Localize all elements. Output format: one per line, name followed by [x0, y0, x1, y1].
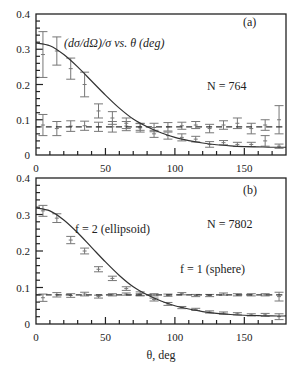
panel-b-ticks	[36, 185, 272, 324]
error-bar	[94, 267, 103, 272]
error-bar	[80, 121, 89, 130]
error-bar	[219, 141, 228, 145]
panel-b-label: (b)	[243, 183, 257, 197]
x-tick-label: 150	[236, 331, 253, 343]
figure: 00.10.20.30.4 050100150 (dσ/dΩ)/σ vs. θ …	[0, 0, 300, 372]
panel-b-n-annotation: N = 7802	[207, 217, 252, 231]
error-bar	[108, 276, 117, 280]
error-bar	[261, 136, 270, 147]
x-tick-label: 100	[167, 331, 184, 343]
error-bar	[205, 124, 214, 132]
x-tick-label: 50	[100, 331, 112, 343]
x-tick-label: 100	[167, 162, 184, 174]
error-bar	[38, 114, 47, 135]
error-bar	[247, 123, 256, 134]
error-bar	[94, 104, 103, 118]
error-bar	[80, 248, 89, 254]
y-tick-label: 0.3	[16, 43, 30, 55]
y-tick-label: 0.2	[16, 245, 30, 257]
error-bar	[247, 142, 256, 146]
x-tick-label: 150	[236, 162, 253, 174]
error-bar	[275, 314, 284, 320]
error-bar	[94, 295, 103, 298]
y-tick-label: 0.4	[16, 172, 30, 184]
y-tick-label: 0	[25, 149, 31, 161]
error-bar	[80, 72, 89, 97]
error-bar	[261, 120, 270, 131]
panel-a-y-tick-labels: 00.10.20.30.4	[16, 8, 30, 161]
y-tick-label: 0.1	[16, 114, 30, 126]
panel-a: 00.10.20.30.4 050100150 (dσ/dΩ)/σ vs. θ …	[16, 8, 286, 174]
x-tick-label: 50	[100, 162, 112, 174]
panel-b-frame	[36, 178, 286, 324]
y-tick-label: 0.3	[16, 209, 30, 221]
y-tick-label: 0.4	[16, 8, 30, 20]
panel-b-y-tick-labels: 00.10.20.30.4	[16, 172, 30, 330]
panel-a-n-annotation: N = 764	[207, 79, 246, 93]
error-bar	[275, 292, 284, 301]
y-tick-label: 0.2	[16, 79, 30, 91]
panel-a-title: (dσ/dΩ)/σ vs. θ (deg)	[64, 36, 164, 50]
y-tick-label: 0.1	[16, 282, 30, 294]
y-tick-label: 0	[25, 318, 31, 330]
panel-b-x-tick-labels: 050100150	[33, 331, 253, 343]
x-tick-label: 0	[33, 331, 39, 343]
panel-b: 00.10.20.30.4 050100150 (b) N = 7802 f =…	[16, 172, 286, 343]
x-tick-label: 0	[33, 162, 39, 174]
error-bar	[66, 236, 75, 243]
panel-b-ellipsoid-label: f = 2 (ellipsoid)	[75, 222, 150, 236]
error-bar	[66, 121, 75, 132]
error-bar	[52, 122, 61, 136]
panel-a-x-tick-labels: 050100150	[33, 162, 253, 174]
error-bar	[122, 287, 131, 291]
error-bar	[66, 58, 75, 79]
x-axis-label: θ, deg	[146, 348, 175, 362]
error-bar	[219, 121, 228, 129]
error-bar	[275, 106, 284, 134]
panel-a-label: (a)	[243, 15, 256, 29]
error-bar	[177, 122, 186, 129]
error-bar	[122, 122, 131, 131]
panel-b-sphere-label: f = 1 (sphere)	[180, 262, 245, 276]
